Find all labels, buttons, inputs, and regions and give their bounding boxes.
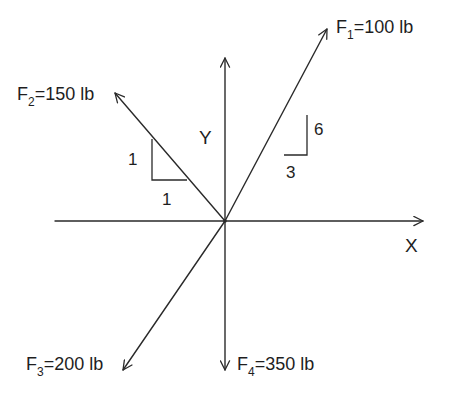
force-f1-arrow-icon xyxy=(225,29,327,221)
force-f1-value: =100 lb xyxy=(354,17,414,37)
force-f3-label: F3=200 lb xyxy=(26,354,103,379)
force-f4-symbol: F xyxy=(237,354,248,374)
force-f1-label: F1=100 lb xyxy=(336,17,413,42)
y-axis-label: Y xyxy=(199,127,212,148)
force-f1-symbol: F xyxy=(336,17,347,37)
force-f2-label: F2=150 lb xyxy=(17,84,94,109)
slope-f2-run: 1 xyxy=(162,190,171,209)
x-axis-label: X xyxy=(405,235,418,256)
force-f2-value: =150 lb xyxy=(35,84,95,104)
slope-triangle-f1 xyxy=(284,115,307,155)
slope-triangle-f2 xyxy=(152,139,187,180)
force-f1: 6 3 F1=100 lb xyxy=(225,17,413,221)
slope-f1-run: 3 xyxy=(286,163,295,182)
force-f3-value: =200 lb xyxy=(44,354,104,374)
force-f4: F4=350 lb xyxy=(225,221,314,379)
force-f2-symbol: F xyxy=(17,84,28,104)
force-f2: 1 1 F2=150 lb xyxy=(17,84,225,221)
force-f4-label: F4=350 lb xyxy=(237,354,314,379)
origin-point xyxy=(223,219,227,223)
force-diagram: X Y 6 3 F1=100 lb 1 1 F2=150 lb xyxy=(0,0,453,398)
force-f3-arrow-icon xyxy=(123,221,225,370)
slope-f2-rise: 1 xyxy=(128,150,137,169)
y-axis: Y xyxy=(199,58,225,221)
force-f4-value: =350 lb xyxy=(255,354,315,374)
force-f3-symbol: F xyxy=(26,354,37,374)
x-axis: X xyxy=(55,221,423,256)
slope-f1-rise: 6 xyxy=(314,120,323,139)
force-f3: F3=200 lb xyxy=(26,221,225,379)
